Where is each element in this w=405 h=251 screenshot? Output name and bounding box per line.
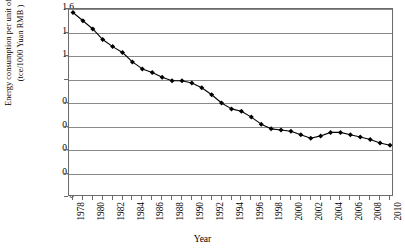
x-tick-mark [320, 196, 321, 200]
x-tick-mark [300, 196, 301, 200]
x-tick-mark [359, 196, 360, 200]
x-tick-mark [211, 196, 212, 200]
x-tick-mark [270, 196, 271, 200]
x-tick-mark [330, 196, 331, 200]
data-point-marker [358, 135, 363, 140]
data-point-marker [189, 81, 194, 86]
x-tick-mark [72, 196, 73, 200]
data-point-marker [170, 78, 175, 83]
x-tick-mark [141, 196, 142, 200]
x-tick-mark [201, 196, 202, 200]
x-tick-mark [240, 196, 241, 200]
data-point-marker [328, 130, 333, 135]
x-tick-mark [112, 196, 113, 200]
x-tick-mark [82, 196, 83, 200]
x-tick-mark [181, 196, 182, 200]
series-line [73, 13, 390, 146]
x-tick-mark [250, 196, 251, 200]
y-axis-title-line-1: Energy consumption per unit of GDP [3, 0, 15, 131]
data-point-marker [150, 70, 155, 75]
data-point-marker [239, 109, 244, 114]
data-point-marker [160, 75, 165, 80]
x-tick-mark [260, 196, 261, 200]
data-point-marker [298, 132, 303, 137]
y-axis-title: Energy consumption per unit of GDP (tce/… [3, 0, 33, 131]
x-axis-title: Year [0, 234, 405, 244]
x-tick-mark [231, 196, 232, 200]
energy-intensity-line-chart: Energy consumption per unit of GDP (tce/… [0, 0, 405, 251]
x-tick-mark [310, 196, 311, 200]
x-tick-mark [161, 196, 162, 200]
data-point-marker [269, 126, 274, 131]
x-tick-mark [339, 196, 340, 200]
plot-area [68, 8, 393, 196]
x-tick-mark [369, 196, 370, 200]
x-tick-mark [379, 196, 380, 200]
data-point-marker [229, 106, 234, 111]
data-point-marker [279, 128, 284, 133]
y-tick-mark [64, 196, 68, 197]
data-point-marker [338, 130, 343, 135]
data-point-marker [179, 78, 184, 83]
x-tick-mark [349, 196, 350, 200]
data-point-marker [288, 129, 293, 134]
x-tick-mark [151, 196, 152, 200]
x-tick-mark [92, 196, 93, 200]
x-tick-mark [389, 196, 390, 200]
x-tick-mark [131, 196, 132, 200]
x-tick-mark [171, 196, 172, 200]
x-tick-mark [102, 196, 103, 200]
x-tick-mark [280, 196, 281, 200]
x-tick-mark [221, 196, 222, 200]
data-point-marker [378, 140, 383, 145]
data-point-marker [348, 132, 353, 137]
series-energy-intensity [69, 9, 394, 197]
x-tick-mark [290, 196, 291, 200]
data-point-marker [388, 143, 393, 148]
data-point-marker [368, 137, 373, 142]
x-tick-mark [122, 196, 123, 200]
x-tick-mark [191, 196, 192, 200]
y-axis-title-line-2: (tce/1000 Yuan RMB ) [15, 0, 27, 131]
data-point-marker [318, 133, 323, 138]
data-point-marker [308, 136, 313, 141]
